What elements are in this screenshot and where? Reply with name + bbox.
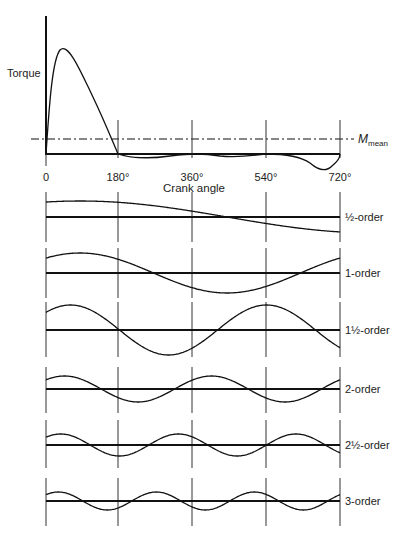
order-panel: 3-order: [46, 478, 381, 526]
y-axis-label: Torque: [7, 67, 41, 79]
order-label: 3-order: [345, 495, 381, 507]
mean-label: Mmean: [358, 132, 388, 148]
x-tick-label: 180°: [107, 171, 130, 183]
x-tick-label: 720°: [329, 171, 352, 183]
crank-angle-gridlines: [46, 120, 340, 166]
x-tick-label: 540°: [255, 171, 278, 183]
order-panel: 2-order: [46, 367, 381, 413]
torque-chart: Torque Mmean 0180°360°540°720° Crank ang…: [7, 16, 388, 194]
order-label: 1-order: [345, 267, 381, 279]
order-label: 1½-order: [345, 324, 390, 336]
order-panel: ½-order: [46, 192, 384, 242]
order-panel: 1-order: [46, 248, 381, 298]
order-panel: 2½-order: [46, 420, 390, 468]
order-label: ½-order: [345, 211, 384, 223]
order-label: 2-order: [345, 383, 381, 395]
order-panel: 1½-order: [46, 302, 390, 357]
torque-curve: [46, 49, 340, 170]
x-axis-label: Crank angle: [163, 182, 225, 194]
order-label: 2½-order: [345, 439, 390, 451]
x-tick-label: 0: [43, 171, 49, 183]
harmonic-order-panels: ½-order1-order1½-order2-order2½-order3-o…: [46, 192, 390, 526]
torque-harmonics-diagram: Torque Mmean 0180°360°540°720° Crank ang…: [0, 0, 399, 542]
